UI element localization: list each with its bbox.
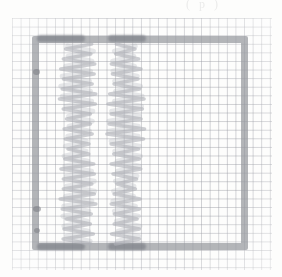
sketch-canvas: ( p )	[0, 0, 282, 277]
scribble-layer	[0, 0, 282, 277]
